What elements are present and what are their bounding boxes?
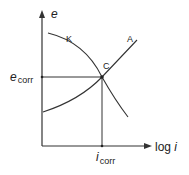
x-axis-label: log i bbox=[155, 140, 177, 154]
icorr-label-main: i bbox=[96, 150, 99, 164]
x-axis-label-prefix: log bbox=[155, 140, 174, 154]
x-axis-arrow-icon bbox=[144, 143, 152, 149]
y-axis-arrow-icon bbox=[39, 10, 45, 18]
intersection-point-c bbox=[100, 75, 104, 79]
intersection-label-c: C bbox=[103, 61, 110, 71]
ecorr-label-sub: corr bbox=[18, 75, 34, 85]
x-axis-label-var: i bbox=[174, 140, 177, 154]
icorr-label-sub: corr bbox=[100, 156, 116, 166]
curve-label-k: K bbox=[66, 34, 72, 44]
icorr-tick bbox=[101, 145, 104, 148]
cathodic-curve-k bbox=[48, 33, 128, 117]
ecorr-label: ecorr bbox=[10, 70, 33, 85]
evans-diagram: e log i K A C ecorr icorr bbox=[0, 0, 189, 175]
curve-label-a: A bbox=[127, 34, 133, 44]
ecorr-label-main: e bbox=[10, 70, 17, 84]
ecorr-tick bbox=[41, 76, 44, 79]
anodic-curve-a bbox=[43, 40, 137, 112]
y-axis-label: e bbox=[51, 7, 58, 21]
icorr-label: icorr bbox=[96, 150, 115, 166]
